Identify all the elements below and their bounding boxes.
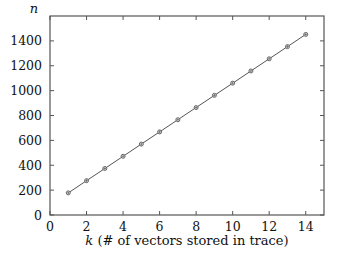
x-axis-label: k (# of vectors stored in trace)	[85, 233, 288, 248]
data-point-marker	[85, 179, 89, 183]
plot-frame	[50, 16, 324, 215]
data-point-marker	[121, 154, 125, 158]
data-point-marker	[194, 106, 198, 110]
y-axis-label: n	[30, 1, 38, 16]
x-axis-variable: k	[85, 233, 93, 248]
data-point-marker	[249, 69, 253, 73]
x-tick-label: 14	[298, 219, 314, 234]
y-tick-label: 400	[18, 158, 42, 173]
y-tick-label: 1400	[10, 33, 42, 48]
x-tick-label: 6	[156, 219, 164, 234]
data-point-marker	[285, 45, 289, 49]
y-tick-label: 200	[18, 183, 42, 198]
y-tick-label: 800	[18, 108, 42, 123]
y-tick-label: 1000	[10, 83, 42, 98]
x-tick-label: 0	[46, 219, 54, 234]
data-series	[66, 32, 307, 194]
data-point-marker	[212, 93, 216, 97]
x-tick-label: 10	[225, 219, 241, 234]
data-point-marker	[176, 118, 180, 122]
x-axis-description: (# of vectors stored in trace)	[93, 233, 288, 248]
plot-area-border	[50, 16, 324, 215]
data-point-marker	[231, 81, 235, 85]
data-point-marker	[158, 130, 162, 134]
x-tick-label: 2	[83, 219, 91, 234]
y-tick-label: 600	[18, 133, 42, 148]
x-tick-label: 8	[192, 219, 200, 234]
x-tick-label: 4	[119, 219, 127, 234]
data-point-marker	[304, 32, 308, 36]
line-chart: 024681012140200400600800100012001400 n k…	[0, 0, 341, 261]
data-point-marker	[267, 57, 271, 61]
x-tick-label: 12	[261, 219, 277, 234]
y-tick-label: 1200	[10, 58, 42, 73]
data-point-marker	[139, 142, 143, 146]
axis-ticks: 024681012140200400600800100012001400	[10, 16, 324, 234]
y-tick-label: 0	[34, 208, 42, 223]
data-point-marker	[103, 166, 107, 170]
data-point-marker	[66, 191, 70, 195]
